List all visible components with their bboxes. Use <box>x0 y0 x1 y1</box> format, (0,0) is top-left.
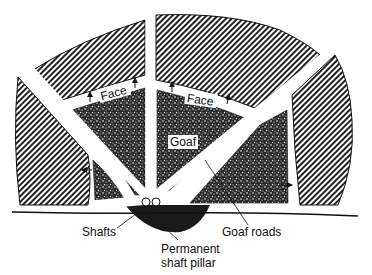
shaft-pillar <box>125 205 210 232</box>
goaf-label: Goaf <box>170 135 197 149</box>
shaft-2 <box>152 198 160 206</box>
pillar-label-line1: Permanent <box>161 242 220 256</box>
mining-layout-diagram: Face Face Goaf Shafts Permanent shaft pi… <box>0 0 372 275</box>
shaft-1 <box>142 198 150 206</box>
pillar-label-line2: shaft pillar <box>161 256 216 270</box>
goaf-roads-label: Goaf roads <box>222 225 281 239</box>
shafts-label: Shafts <box>82 225 116 239</box>
